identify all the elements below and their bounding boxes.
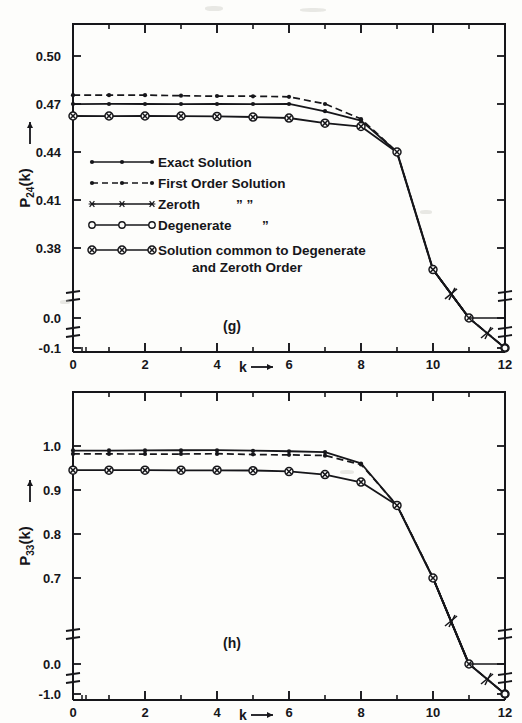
y-tick-label: 0.47 — [36, 97, 61, 112]
y-axis-arrowhead — [27, 122, 33, 128]
x-tick-label: 0 — [69, 357, 76, 372]
y-tick-label: 0.8 — [43, 527, 61, 542]
scan-artifact — [420, 210, 432, 214]
x-tick-label: 0 — [69, 705, 76, 720]
legend-marker-end-0 — [150, 160, 154, 164]
scan-artifact — [205, 6, 223, 11]
legend-marker-end-1 — [150, 181, 154, 185]
x-tick-label: 12 — [498, 705, 512, 720]
y-tick-label: 0.7 — [43, 571, 61, 586]
figure-root: 0.500.470.440.410.380.0-0.1024681012kP24… — [0, 0, 522, 723]
axis-break-mark — [66, 335, 80, 337]
legend-label2-4: and Zeroth Order — [192, 260, 303, 275]
data-point-marker — [179, 94, 183, 98]
y-tick-label-break: -1.0 — [39, 687, 61, 702]
x-tick-label: 10 — [426, 357, 440, 372]
legend-label-2: Zeroth — [158, 197, 200, 212]
data-point-marker — [215, 102, 219, 106]
legend-marker-end-2 — [149, 201, 156, 207]
legend-label-4: Solution common to Degenerate — [158, 243, 366, 258]
end-point-marker — [502, 691, 508, 697]
y-axis-label-group: P24(k) — [16, 168, 36, 207]
data-point-marker — [287, 95, 291, 99]
legend-marker-0 — [90, 160, 94, 164]
data-point-marker — [143, 93, 147, 97]
data-point-marker — [179, 452, 183, 456]
scan-artifact — [300, 8, 326, 12]
panel-label: (h) — [223, 635, 241, 651]
legend-extra-2: ” ” — [236, 197, 253, 212]
x-tick-label: 2 — [141, 357, 148, 372]
axis-break-mark — [66, 681, 80, 683]
series-line-2 — [73, 470, 469, 664]
legend-label-1: First Order Solution — [158, 176, 286, 191]
y-axis-arrowhead — [27, 480, 33, 486]
series-line-0 — [73, 104, 469, 318]
y-tick-label: 0.50 — [36, 49, 61, 64]
data-point-marker — [107, 452, 111, 456]
panel-label: (g) — [223, 318, 241, 334]
axis-break-mark — [66, 629, 80, 631]
legend-label-3: Degenerate — [158, 218, 232, 233]
axis-break-mark — [498, 681, 512, 683]
plot-frame — [73, 24, 505, 352]
y-tick-label: 0.38 — [36, 241, 61, 256]
data-point-marker — [323, 102, 327, 106]
y-tick-label-break: 0.0 — [43, 657, 61, 672]
y-axis-label-group: P33(k) — [16, 526, 36, 565]
x-tick-label: 6 — [285, 705, 292, 720]
x-tick-label: 8 — [357, 705, 364, 720]
x-axis-label: k — [239, 359, 247, 375]
plot-frame — [73, 392, 505, 700]
y-tick-label: 0.41 — [36, 193, 61, 208]
x-axis-arrowhead — [267, 712, 273, 718]
axis-break-mark — [498, 637, 512, 639]
series-line-1 — [73, 95, 469, 318]
data-point-marker — [323, 454, 327, 458]
x-tick-label: 2 — [141, 705, 148, 720]
axis-break-mark — [498, 673, 512, 675]
data-point-marker — [179, 102, 183, 106]
axis-break-mark — [498, 335, 512, 337]
x-axis-arrowhead — [267, 364, 273, 370]
data-point-marker — [71, 452, 75, 456]
series-line-1 — [73, 454, 469, 664]
x-tick-label: 4 — [213, 357, 221, 372]
x-tick-label: 6 — [285, 357, 292, 372]
data-point-marker — [359, 462, 363, 466]
scan-artifact — [340, 470, 354, 474]
data-point-marker — [143, 452, 147, 456]
series-line-0 — [73, 450, 469, 664]
scan-artifact — [60, 300, 70, 304]
legend-marker-mid-0 — [120, 160, 124, 164]
y-tick-label: 1.0 — [43, 439, 61, 454]
data-point-marker — [215, 94, 219, 98]
data-point-marker — [251, 102, 255, 106]
legend-marker-mid-1 — [120, 181, 124, 185]
data-point-marker — [107, 102, 111, 106]
data-point-marker — [107, 93, 111, 97]
y-tick-label: 0.44 — [36, 145, 62, 160]
y-axis-label: P24(k) — [16, 168, 36, 207]
legend-marker-mid-2 — [119, 201, 126, 207]
y-tick-label-break: -0.1 — [39, 341, 61, 356]
x-tick-label: 8 — [357, 357, 364, 372]
axis-break-mark — [66, 673, 80, 675]
data-point-marker — [71, 93, 75, 97]
x-tick-label: 12 — [498, 357, 512, 372]
figure-canvas: 0.500.470.440.410.380.0-0.1024681012kP24… — [0, 0, 522, 723]
data-point-marker — [323, 109, 327, 113]
x-tick-label: 4 — [213, 705, 221, 720]
data-point-marker — [287, 453, 291, 457]
legend-marker-end-3 — [149, 222, 155, 228]
legend-marker-1 — [90, 181, 94, 185]
y-tick-label: 0.9 — [43, 483, 61, 498]
legend-marker-mid-3 — [119, 222, 125, 228]
y-axis-label: P33(k) — [16, 526, 36, 565]
data-point-marker — [143, 102, 147, 106]
legend-label-0: Exact Solution — [158, 155, 252, 170]
axis-break-mark — [498, 629, 512, 631]
series-line-2 — [73, 116, 469, 318]
axis-break-mark — [498, 299, 512, 301]
data-point-marker — [287, 102, 291, 106]
